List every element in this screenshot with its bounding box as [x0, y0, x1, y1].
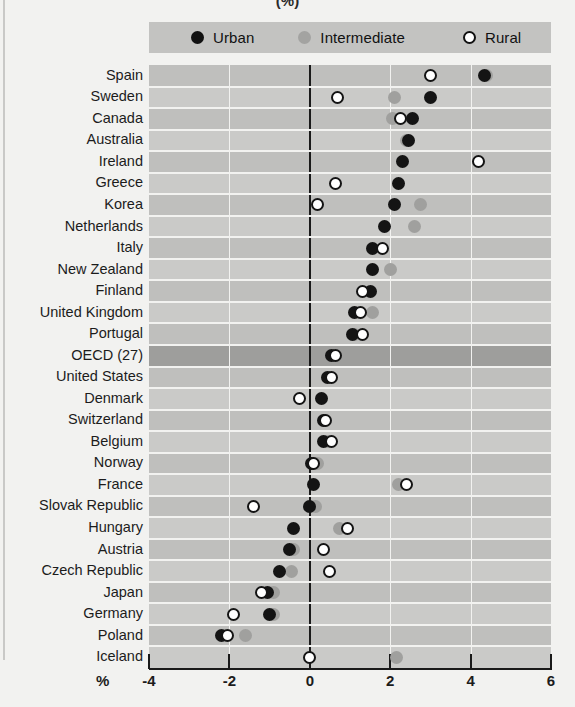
- data-point-rural[interactable]: [303, 651, 316, 664]
- axis-tick: [228, 654, 230, 669]
- chart-title: (%): [0, 0, 575, 10]
- rural-marker-icon: [463, 31, 476, 44]
- category-label: Italy: [0, 240, 143, 255]
- axis-tick-label: -2: [209, 672, 249, 689]
- data-point-intermediate[interactable]: [366, 306, 379, 319]
- row-separator: [149, 645, 551, 647]
- row-band: [149, 582, 551, 604]
- row-band: [149, 474, 551, 496]
- axis-unit-label: %: [96, 672, 109, 689]
- row-band: [149, 388, 551, 410]
- x-axis-line: [149, 668, 552, 670]
- data-point-intermediate[interactable]: [384, 263, 397, 276]
- row-separator: [149, 322, 551, 324]
- urban-marker-icon: [191, 31, 204, 44]
- row-band: [149, 237, 551, 259]
- axis-tick-label: -4: [129, 672, 169, 689]
- data-point-rural[interactable]: [376, 242, 389, 255]
- row-separator: [149, 559, 551, 561]
- category-label: Poland: [0, 628, 143, 643]
- row-separator: [149, 366, 551, 368]
- chart-legend: Urban Intermediate Rural: [149, 22, 551, 53]
- row-separator: [149, 452, 551, 454]
- data-point-intermediate[interactable]: [388, 91, 401, 104]
- data-point-rural[interactable]: [227, 608, 240, 621]
- category-label: Iceland: [0, 649, 143, 664]
- row-separator: [149, 193, 551, 195]
- data-point-intermediate[interactable]: [408, 220, 421, 233]
- row-band: [149, 603, 551, 625]
- axis-tick: [470, 654, 472, 669]
- data-point-rural[interactable]: [247, 500, 260, 513]
- row-band: [149, 173, 551, 195]
- legend-item-intermediate[interactable]: Intermediate: [298, 29, 405, 46]
- row-separator: [149, 495, 551, 497]
- row-band: [149, 539, 551, 561]
- category-label: Sweden: [0, 89, 143, 104]
- data-point-intermediate[interactable]: [390, 651, 403, 664]
- category-label: Spain: [0, 68, 143, 83]
- legend-item-urban[interactable]: Urban: [191, 29, 254, 46]
- data-point-urban[interactable]: [392, 177, 405, 190]
- category-label: Korea: [0, 197, 143, 212]
- axis-tick: [148, 654, 150, 669]
- legend-item-rural[interactable]: Rural: [463, 29, 521, 46]
- category-label: Denmark: [0, 391, 143, 406]
- data-point-urban[interactable]: [287, 522, 300, 535]
- row-separator: [149, 409, 551, 411]
- data-point-rural[interactable]: [356, 285, 369, 298]
- data-point-rural[interactable]: [354, 306, 367, 319]
- row-band: [149, 194, 551, 216]
- data-point-intermediate[interactable]: [285, 565, 298, 578]
- category-label: OECD (27): [0, 348, 143, 363]
- intermediate-marker-icon: [298, 31, 311, 44]
- category-label: Ireland: [0, 154, 143, 169]
- row-separator: [149, 86, 551, 88]
- category-label: New Zealand: [0, 262, 143, 277]
- row-band: [149, 151, 551, 173]
- category-label: Slovak Republic: [0, 498, 143, 513]
- row-band: [149, 108, 551, 130]
- row-separator: [149, 387, 551, 389]
- data-point-rural[interactable]: [341, 522, 354, 535]
- axis-tick: [550, 654, 552, 669]
- data-point-rural[interactable]: [356, 328, 369, 341]
- row-band: [149, 646, 551, 668]
- row-band: [149, 410, 551, 432]
- data-point-rural[interactable]: [323, 565, 336, 578]
- chart-figure: (%) Urban Intermediate Rural SpainSweden…: [0, 0, 575, 707]
- row-separator: [149, 301, 551, 303]
- category-label: Switzerland: [0, 412, 143, 427]
- row-separator: [149, 516, 551, 518]
- data-point-urban[interactable]: [424, 91, 437, 104]
- data-point-urban[interactable]: [366, 263, 379, 276]
- row-separator: [149, 215, 551, 217]
- data-point-rural[interactable]: [394, 112, 407, 125]
- category-label: Germany: [0, 606, 143, 621]
- row-separator: [149, 279, 551, 281]
- row-band: [149, 345, 551, 367]
- row-separator: [149, 624, 551, 626]
- plot-area: [149, 65, 551, 668]
- category-label: Netherlands: [0, 219, 143, 234]
- legend-label-rural: Rural: [485, 29, 521, 46]
- category-label: Hungary: [0, 520, 143, 535]
- data-point-rural[interactable]: [221, 629, 234, 642]
- data-point-urban[interactable]: [263, 608, 276, 621]
- row-band: [149, 625, 551, 647]
- data-point-urban[interactable]: [378, 220, 391, 233]
- legend-label-intermediate: Intermediate: [320, 29, 405, 46]
- row-band: [149, 431, 551, 453]
- data-point-urban[interactable]: [402, 134, 415, 147]
- category-label: United States: [0, 369, 143, 384]
- data-point-urban[interactable]: [273, 565, 286, 578]
- category-label: Greece: [0, 175, 143, 190]
- axis-tick-label: 6: [531, 672, 571, 689]
- row-separator: [149, 430, 551, 432]
- row-separator: [149, 258, 551, 260]
- row-separator: [149, 473, 551, 475]
- category-label: Belgium: [0, 434, 143, 449]
- category-label: Canada: [0, 111, 143, 126]
- axis-tick-label: 0: [290, 672, 330, 689]
- axis-tick-label: 4: [451, 672, 491, 689]
